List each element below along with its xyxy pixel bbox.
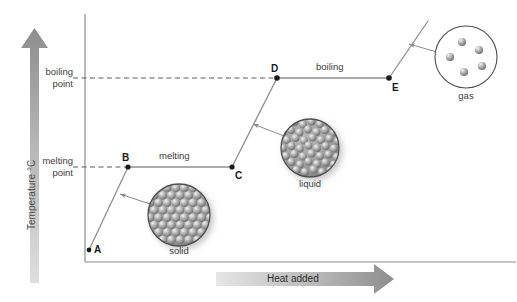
gas-state-circle bbox=[435, 26, 497, 88]
temperature-arrow bbox=[21, 28, 48, 283]
gas-leader-line bbox=[409, 44, 437, 52]
point-dot-c bbox=[229, 164, 234, 169]
heating-curve-figure: boiling point melting point Temperature … bbox=[0, 0, 517, 302]
liquid-state-circle bbox=[279, 118, 342, 177]
point-dot-b bbox=[125, 164, 130, 169]
heating-curve-line bbox=[89, 21, 428, 250]
curve-point-dots bbox=[87, 75, 392, 252]
solid-leader-line bbox=[120, 194, 150, 204]
liquid-leader-line bbox=[253, 124, 284, 136]
point-dot-a bbox=[87, 248, 92, 253]
point-dot-e bbox=[386, 75, 392, 81]
solid-state-circle bbox=[141, 184, 218, 246]
point-dot-d bbox=[274, 75, 280, 81]
leader-lines bbox=[120, 44, 437, 204]
heat-added-arrow bbox=[216, 264, 394, 294]
diagram-canvas bbox=[0, 0, 517, 302]
guide-lines bbox=[73, 78, 277, 167]
